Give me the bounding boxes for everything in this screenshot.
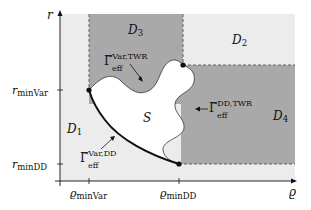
label-rho-minvar: ϱminVar — [70, 187, 108, 201]
x-axis-label: ϱ — [289, 185, 296, 199]
label-gamma-dd-twr-sub: eff — [217, 111, 229, 120]
label-rho-mindd: ϱminDD — [160, 187, 197, 201]
point-minvar — [86, 87, 91, 92]
point-mindd — [176, 161, 181, 166]
y-axis-label: r — [47, 8, 54, 22]
point-top — [180, 62, 185, 67]
efficient-frontier-diagram: r ϱ rminVar rminDD ϱminVar ϱminDD D1 D2 … — [0, 0, 311, 210]
y-axis-arrow-icon — [58, 10, 63, 16]
set-s-label: S — [143, 111, 151, 125]
label-r-mindd: rminDD — [12, 158, 47, 172]
label-gamma-var-twr-sub: eff — [112, 64, 124, 73]
label-gamma-var-dd-sub: eff — [88, 161, 100, 170]
label-r-minvar: rminVar — [12, 84, 49, 98]
